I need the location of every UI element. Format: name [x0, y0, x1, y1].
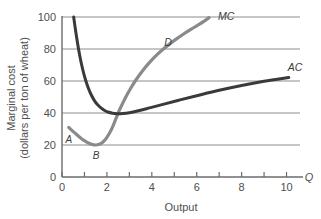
- cost-curves-chart: 0246810 020406080100 MCACD AB OutputQMar…: [0, 0, 321, 219]
- y-axis-title-line2: (dollars per ton of wheat): [18, 37, 30, 159]
- x-axis-title: Output: [164, 201, 197, 213]
- y-tick-label-60: 60: [44, 75, 56, 87]
- x-tick-label-6: 6: [194, 181, 200, 193]
- x-axis-ticks: [62, 172, 287, 177]
- curve-ac: [74, 17, 289, 114]
- chart-figure: 0246810 020406080100 MCACD AB OutputQMar…: [0, 0, 321, 219]
- point-d-label: D: [164, 36, 172, 48]
- x-tick-label-8: 8: [239, 181, 245, 193]
- y-tick-label-20: 20: [44, 139, 56, 151]
- x-axis-tick-labels: 0246810: [59, 181, 293, 193]
- ac-curve-label: AC: [287, 61, 303, 73]
- x-tick-label-0: 0: [59, 181, 65, 193]
- y-tick-label-40: 40: [44, 107, 56, 119]
- x-tick-label-4: 4: [149, 181, 155, 193]
- x-tick-label-2: 2: [104, 181, 110, 193]
- mc-curve-label: MC: [218, 10, 235, 22]
- point-a-label: A: [64, 134, 72, 145]
- curve-labels: MCACD: [164, 10, 302, 73]
- x-tick-label-10: 10: [280, 181, 292, 193]
- y-tick-label-0: 0: [50, 171, 56, 183]
- axis-titles: OutputQMarginal cost(dollars per ton of …: [5, 37, 314, 213]
- y-tick-label-80: 80: [44, 43, 56, 55]
- x-axis-variable-label: Q: [305, 171, 314, 183]
- point-b-label: B: [93, 150, 100, 161]
- y-axis-tick-labels: 020406080100: [38, 11, 56, 183]
- y-tick-label-100: 100: [38, 11, 56, 23]
- y-axis-title-line1: Marginal cost: [5, 65, 17, 130]
